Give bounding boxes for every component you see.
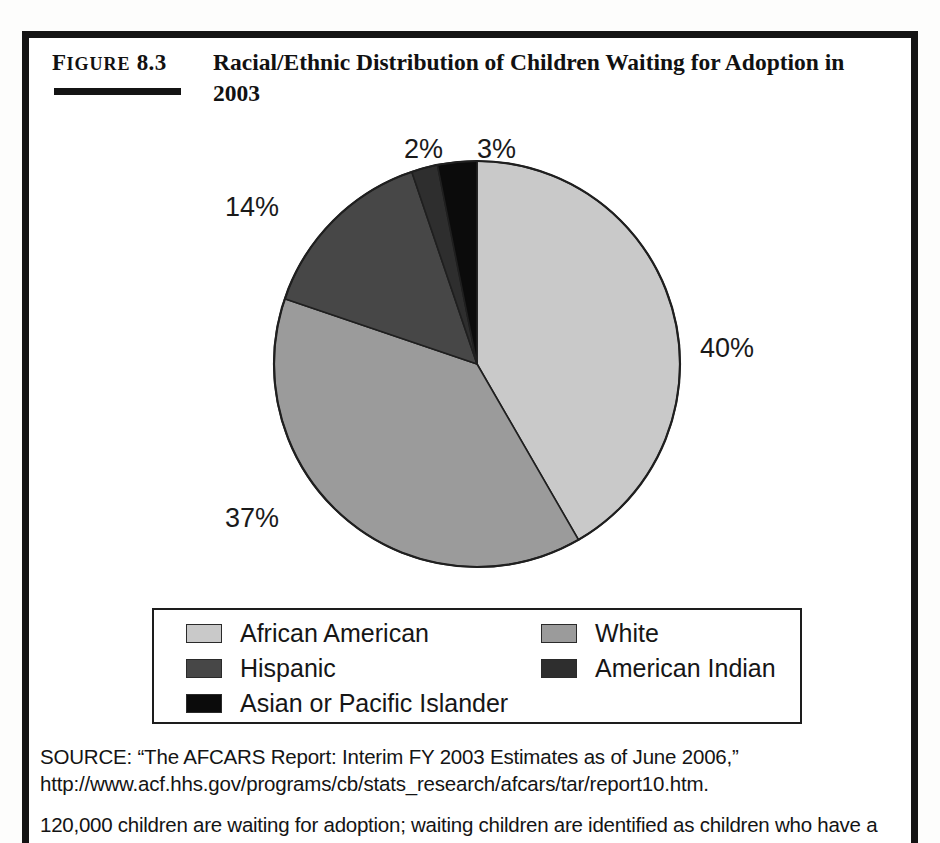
pie-label-american-indian: 2%	[404, 134, 443, 165]
legend-label-white: White	[595, 618, 659, 648]
legend-swatch-african-american	[186, 624, 222, 643]
pie-chart-svg	[40, 130, 900, 600]
chart-legend: African American White Hispanic American…	[152, 608, 802, 724]
figure-note: 120,000 children are waiting for adoptio…	[40, 811, 906, 838]
legend-item-asian-or-pacific-islander: Asian or Pacific Islander	[186, 688, 508, 718]
figure-header: FIGURE 8.3 Racial/Ethnic Distribution of…	[52, 47, 882, 129]
legend-swatch-white	[541, 624, 577, 643]
legend-item-hispanic: Hispanic	[186, 653, 336, 683]
figure-rule	[54, 88, 181, 95]
page-title: Racial/Ethnic Distribution of Children W…	[213, 47, 873, 109]
source-block: SOURCE: “The AFCARS Report: Interim FY 2…	[40, 743, 906, 838]
figure-page: FIGURE 8.3 Racial/Ethnic Distribution of…	[0, 0, 940, 843]
legend-item-african-american: African American	[186, 618, 429, 648]
legend-item-american-indian: American Indian	[541, 653, 776, 683]
pie-chart: 40% 37% 14% 2% 3%	[40, 130, 900, 600]
legend-label-american-indian: American Indian	[595, 653, 776, 683]
figure-number: FIGURE 8.3	[52, 50, 167, 76]
pie-slices	[274, 161, 680, 567]
pie-label-white: 37%	[225, 503, 279, 534]
legend-swatch-american-indian	[541, 659, 577, 678]
figure-number-caps: IGURE	[66, 54, 130, 74]
pie-label-asian-or-pacific-islander: 3%	[477, 134, 516, 165]
legend-swatch-hispanic	[186, 659, 222, 678]
figure-number-digits: 8.3	[137, 50, 167, 75]
legend-item-white: White	[541, 618, 659, 648]
figure-number-lead: F	[52, 50, 66, 75]
source-citation: SOURCE: “The AFCARS Report: Interim FY 2…	[40, 743, 906, 797]
legend-label-hispanic: Hispanic	[240, 653, 336, 683]
pie-label-hispanic: 14%	[225, 192, 279, 223]
pie-label-african-american: 40%	[700, 333, 754, 364]
legend-swatch-asian-or-pacific-islander	[186, 694, 222, 713]
legend-label-asian-or-pacific-islander: Asian or Pacific Islander	[240, 688, 508, 718]
legend-label-african-american: African American	[240, 618, 429, 648]
